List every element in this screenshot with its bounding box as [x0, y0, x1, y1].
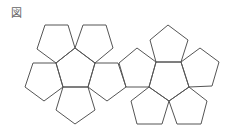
pentagon-face	[56, 87, 95, 124]
pentagon-face	[181, 48, 219, 87]
pentagon-face	[75, 25, 113, 63]
pentagon-face	[37, 25, 75, 63]
pentagon-face	[25, 63, 63, 101]
dodecahedron-net	[0, 0, 233, 138]
pentagon-face	[169, 87, 207, 124]
pentagon-face	[131, 87, 169, 124]
pentagon-face	[119, 48, 156, 87]
pentagon-face	[150, 25, 188, 62]
pentagon-face	[56, 48, 95, 87]
